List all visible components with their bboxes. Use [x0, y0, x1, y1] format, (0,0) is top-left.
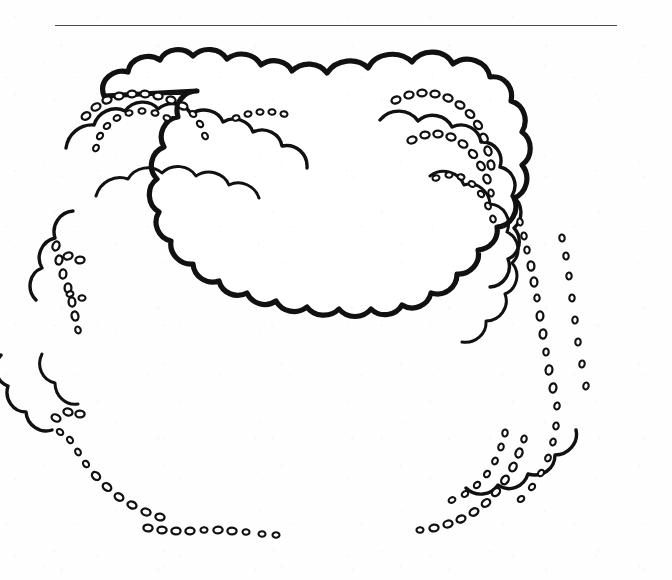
pebble-cluster-bottom-middle	[258, 531, 279, 538]
pebble-cluster-bottom-left	[50, 408, 165, 522]
cloud-scallop-frame	[0, 0, 672, 580]
pebble-cluster-right-edge	[517, 218, 561, 410]
page-canvas: Decorative cloud border frame	[0, 0, 672, 580]
pebble-cluster-right-edge-outer	[559, 234, 590, 390]
pebble-cluster-top-left-inner	[92, 108, 171, 152]
pebble-cluster-bottom-left-base	[143, 524, 250, 535]
pebble-cluster-bottom-right	[416, 435, 527, 533]
